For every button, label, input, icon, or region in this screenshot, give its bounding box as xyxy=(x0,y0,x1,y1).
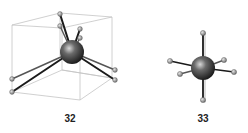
ligand-atom xyxy=(200,97,205,102)
central-atom-32 xyxy=(60,40,84,64)
ligand-atom xyxy=(177,71,182,76)
ligand-atom xyxy=(167,58,172,63)
ligand-atom xyxy=(221,57,226,62)
ligand-atom xyxy=(78,27,83,32)
ligand-atom xyxy=(78,36,83,41)
ligand-atom xyxy=(10,77,15,82)
structure-33 xyxy=(167,30,236,102)
ligand-atom xyxy=(58,12,63,17)
central-atom-33 xyxy=(191,56,215,80)
ligand-atom xyxy=(231,69,236,74)
ligand-atom xyxy=(58,24,63,29)
ligand-atom xyxy=(113,78,118,83)
ligand-atom xyxy=(113,68,118,73)
structure-label-32: 32 xyxy=(55,113,85,124)
structure-32 xyxy=(10,12,118,100)
ligand-atom xyxy=(200,30,205,35)
ligand-atom xyxy=(10,90,15,95)
structure-label-33: 33 xyxy=(188,113,218,124)
